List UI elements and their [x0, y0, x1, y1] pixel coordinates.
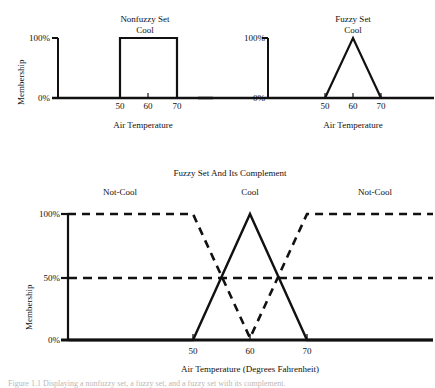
panel-nonfuzzy-plot — [0, 0, 215, 150]
panel-nonfuzzy-set: Nonfuzzy Set Cool Membership 100% 0% 50 … — [0, 0, 215, 150]
series-cool-fuzzy — [325, 38, 381, 98]
panel-complement-plot — [0, 155, 435, 388]
panel-fuzzy-plot — [215, 0, 435, 150]
panel-fuzzy-complement: Fuzzy Set And Its Complement Not-Cool Co… — [0, 155, 435, 388]
series-not-cool — [68, 214, 433, 338]
figure-root: Nonfuzzy Set Cool Membership 100% 0% 50 … — [0, 0, 435, 388]
panel-fuzzy-set: Fuzzy Set Cool 100% 0% 50 60 70 Air Temp… — [215, 0, 435, 150]
series-cool-crisp — [120, 38, 177, 98]
figure-caption: Figure 1.1 Displaying a nonfuzzy set, a … — [8, 379, 285, 388]
